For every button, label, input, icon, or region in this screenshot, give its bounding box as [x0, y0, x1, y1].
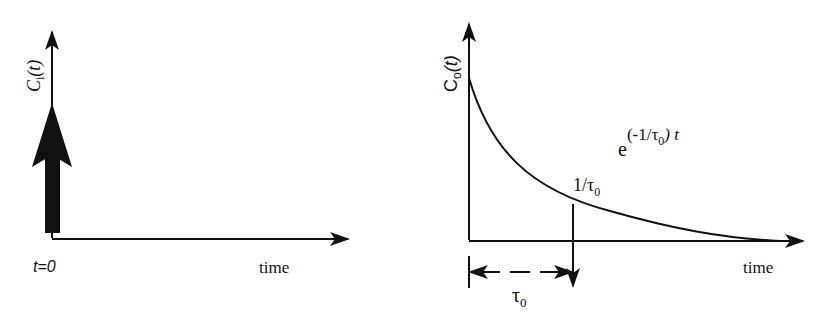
left-y-axis-label: Ci(t): [24, 60, 47, 92]
interval-label: τ0: [512, 284, 527, 310]
time-constant-point-label: 1/τ0: [573, 175, 600, 199]
right-x-axis-label: time: [743, 258, 773, 277]
left-x-axis-label: time: [259, 258, 289, 277]
right-y-axis-label: Co(t): [441, 55, 464, 92]
right-panel: Co(t) e(-1/τ0) t 1/τ0 τ0 time: [441, 24, 803, 310]
left-panel: Ci(t) t=0 time: [24, 32, 348, 277]
impulse-arrow: [32, 103, 72, 233]
diagram-canvas: Ci(t) t=0 time Co(t) e(-1/τ0) t 1/τ0: [0, 0, 827, 322]
origin-label: t=0: [33, 258, 56, 275]
curve-formula-label: e(-1/τ0) t: [618, 125, 680, 160]
